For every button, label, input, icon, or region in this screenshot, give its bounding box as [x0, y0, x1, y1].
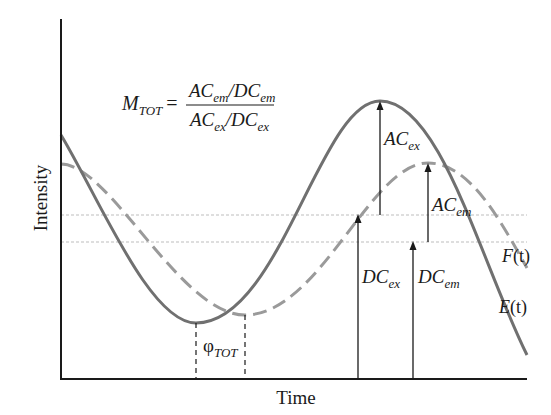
- dc-ex-label: DCex: [361, 266, 400, 291]
- phase-label: φTOT: [203, 335, 238, 360]
- ac-ex-label: ACex: [382, 128, 420, 153]
- modulation-formula: MTOT= ACem/DCem ACex/DCex: [121, 80, 275, 134]
- svg-text:ACem/DCem: ACem/DCem: [187, 80, 275, 105]
- svg-text:MTOT=: MTOT=: [121, 92, 178, 118]
- emission-curve-f: [61, 163, 527, 315]
- x-axis-label: Time: [276, 387, 315, 408]
- dc-em-arrowhead-icon: [410, 241, 417, 250]
- emission-curve-label: F(t): [501, 246, 530, 267]
- excitation-curve-label: E(t): [498, 297, 527, 318]
- excitation-curve-e: [61, 101, 527, 355]
- svg-text:ACex/DCex: ACex/DCex: [188, 109, 269, 134]
- phase-modulation-diagram: Time Intensity MTOT= ACem/DCem ACex/DCex…: [0, 0, 551, 415]
- dc-em-label: DCem: [417, 266, 460, 291]
- y-axis-label: Intensity: [30, 164, 51, 231]
